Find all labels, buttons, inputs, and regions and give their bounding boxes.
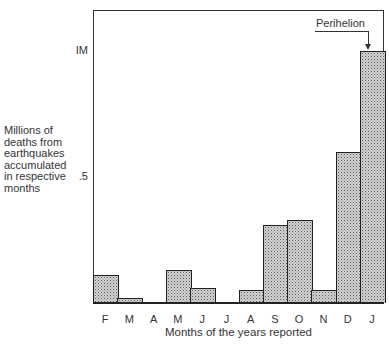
bar (166, 270, 192, 303)
y-axis-label-line: earthquakes (4, 148, 66, 160)
x-tick-label: M (166, 313, 190, 325)
bar (190, 288, 216, 303)
x-tick-label: A (239, 313, 263, 325)
arrow-down-icon (365, 44, 371, 50)
y-tick-label: .5 (79, 170, 88, 182)
x-tick-label: A (142, 313, 166, 325)
x-axis-line (93, 302, 384, 304)
y-axis-label-line: months (4, 183, 66, 195)
perihelion-annotation: Perihelion (316, 17, 365, 29)
x-axis-label: Months of the years reported (93, 326, 384, 338)
y-axis-label-line: Millions of (4, 125, 66, 137)
y-tick-label: IM (76, 44, 88, 56)
bar (263, 225, 289, 303)
annotation-arrow-shaft (368, 31, 369, 45)
x-tick-label: N (311, 313, 335, 325)
x-tick-label: F (93, 313, 117, 325)
x-tick-label: J (360, 313, 384, 325)
x-tick-label: D (336, 313, 360, 325)
bar (336, 152, 362, 303)
x-tick-label: J (214, 313, 238, 325)
y-axis-label-line: in respective (4, 171, 66, 183)
x-tick-label: O (287, 313, 311, 325)
bar (93, 275, 119, 303)
x-tick-label: J (190, 313, 214, 325)
y-axis-label: Millions ofdeaths fromearthquakesaccumul… (4, 125, 66, 194)
bar (360, 51, 386, 303)
bar (287, 220, 313, 303)
x-tick-label: S (263, 313, 287, 325)
annotation-leader-line (315, 31, 369, 32)
x-tick-label: M (117, 313, 141, 325)
